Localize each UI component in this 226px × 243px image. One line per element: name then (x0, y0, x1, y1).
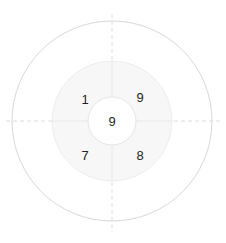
label-top-left: 1 (81, 92, 88, 107)
label-center: 9 (108, 114, 115, 129)
target-diagram: 1 9 7 8 9 (0, 0, 226, 243)
label-top-right: 9 (136, 90, 143, 105)
label-bottom-left: 7 (81, 148, 88, 163)
target-diagram-canvas: 1 9 7 8 9 (0, 0, 226, 243)
label-bottom-right: 8 (136, 148, 143, 163)
